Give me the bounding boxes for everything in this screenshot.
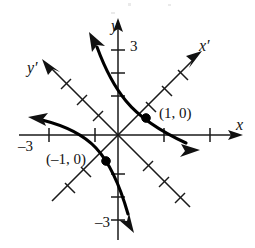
x-prime-axis-label: x′ bbox=[199, 38, 210, 54]
hyperbola-rotated-axes-figure: y x x′ y′ 3 –3 –3 (1, 0) (–1, 0) bbox=[0, 0, 255, 248]
x-prime-axis-tick bbox=[178, 70, 188, 80]
hyperbola-branch-upper bbox=[89, 32, 200, 157]
x-prime-axis-tick bbox=[81, 167, 91, 177]
vertex-dot-negative bbox=[102, 157, 111, 166]
figure-canvas bbox=[0, 0, 255, 248]
x-prime-axis-group bbox=[52, 51, 202, 201]
y-prime-axis-arrowhead bbox=[42, 59, 60, 75]
point-label-positive: (1, 0) bbox=[159, 106, 192, 121]
y-axis-label: y bbox=[111, 18, 118, 34]
vertex-dot-positive bbox=[142, 114, 151, 123]
x-prime-axis-tick bbox=[162, 86, 172, 96]
x-prime-axis-tick bbox=[146, 102, 156, 112]
x-axis-group bbox=[19, 128, 243, 142]
hyperbola-lower-arrowhead-bottom bbox=[119, 213, 134, 233]
x-axis-label: x bbox=[236, 117, 243, 133]
point-label-negative: (–1, 0) bbox=[46, 152, 86, 167]
y-axis-tick-label-3: 3 bbox=[130, 39, 138, 54]
x-prime-axis-tick bbox=[65, 183, 75, 193]
hyperbola-branch-upper-path bbox=[97, 47, 186, 143]
x-axis-tick-label-minus-3: –3 bbox=[18, 139, 33, 154]
hyperbola-upper-arrowhead-bottomright bbox=[180, 144, 200, 157]
y-prime-axis-label: y′ bbox=[27, 60, 38, 76]
y-axis-tick-label-minus-3: –3 bbox=[95, 215, 110, 230]
